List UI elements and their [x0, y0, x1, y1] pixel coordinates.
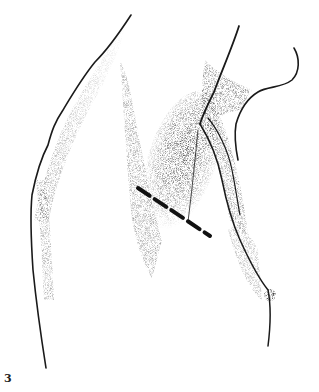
neck-shoulder-contour [235, 48, 298, 160]
stipple-shading [34, 16, 276, 301]
anatomical-illustration: 3 [0, 0, 319, 392]
figure-number: 3 [4, 372, 12, 385]
axilla-drawing [0, 0, 319, 392]
